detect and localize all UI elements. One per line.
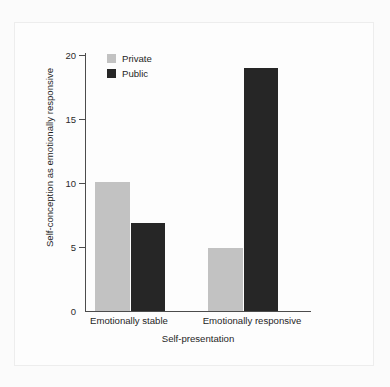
y-tick-label-10: 10 <box>52 179 76 189</box>
chart-figure: Self-conception as emotionally responsiv… <box>0 0 390 387</box>
y-tick-label-5: 5 <box>52 243 76 253</box>
bar-public-emotionally-stable[interactable] <box>131 223 165 311</box>
y-tick-mark-10 <box>79 183 85 184</box>
legend-label-private: Private <box>122 54 152 64</box>
bar-public-emotionally-responsive[interactable] <box>244 68 278 311</box>
y-tick-20: 20 <box>52 51 76 52</box>
x-category-label-emotionally-stable: Emotionally stable <box>85 316 173 327</box>
y-tick-label-15: 15 <box>52 115 76 125</box>
legend-swatch-private-icon <box>107 54 116 63</box>
y-tick-mark-15 <box>79 119 85 120</box>
bar-private-emotionally-responsive[interactable] <box>208 248 243 311</box>
y-tick-label-20: 20 <box>52 51 76 61</box>
x-category-label-emotionally-responsive: Emotionally responsive <box>193 316 311 327</box>
y-tick-label-0: 0 <box>52 307 76 317</box>
legend-item-private[interactable]: Private <box>107 51 152 66</box>
y-tick-mark-5 <box>79 247 85 248</box>
y-tick-mark-20 <box>79 55 85 56</box>
bars-layer <box>86 55 311 311</box>
x-axis-line <box>85 311 311 312</box>
chart-legend: Private Public <box>107 51 152 81</box>
bar-private-emotionally-stable[interactable] <box>95 182 130 311</box>
y-tick-0: 0 <box>52 307 76 308</box>
y-tick-5: 5 <box>52 243 76 244</box>
y-tick-15: 15 <box>52 115 76 116</box>
legend-swatch-public-icon <box>107 69 116 78</box>
x-axis-label: Self-presentation <box>85 333 311 344</box>
legend-item-public[interactable]: Public <box>107 66 152 81</box>
y-tick-10: 10 <box>52 179 76 180</box>
legend-label-public: Public <box>122 69 148 79</box>
